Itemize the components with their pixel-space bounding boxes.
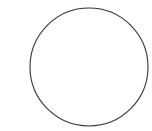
circle-shape [30,8,148,126]
diagram-canvas [0,0,152,131]
